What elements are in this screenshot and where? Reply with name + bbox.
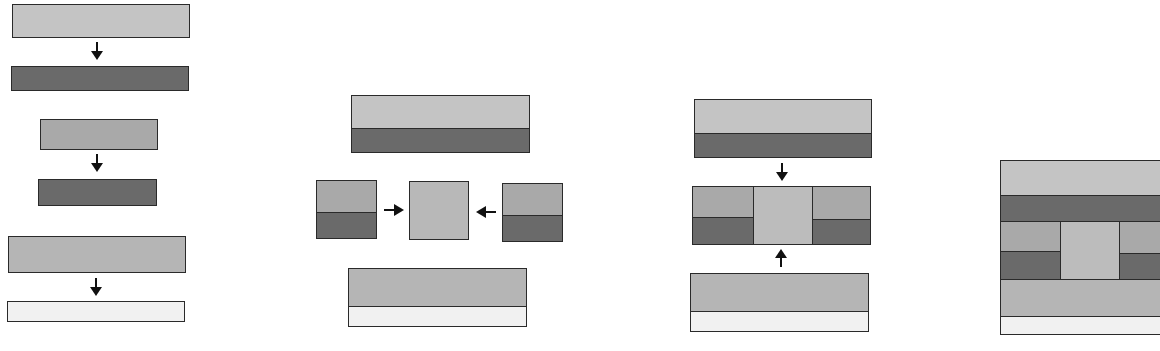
band-dark bbox=[503, 215, 562, 241]
band-dark bbox=[352, 128, 529, 152]
bottom-bilayer bbox=[348, 268, 527, 327]
top-bilayer bbox=[694, 99, 872, 158]
center-segment bbox=[1060, 222, 1119, 279]
center-segment bbox=[753, 187, 812, 244]
band-very-light bbox=[1001, 316, 1160, 334]
band-medium bbox=[317, 181, 376, 212]
band-very-light bbox=[349, 306, 526, 326]
arrow-left-icon bbox=[476, 206, 496, 218]
band-medium bbox=[349, 269, 526, 306]
arrow-down-icon bbox=[90, 278, 102, 296]
band-medium bbox=[693, 187, 753, 217]
top-bilayer bbox=[351, 95, 530, 153]
layer-dark-2 bbox=[38, 179, 157, 206]
band-medium bbox=[691, 274, 868, 311]
bottom-bilayer bbox=[690, 273, 869, 332]
right-segment bbox=[812, 187, 870, 244]
band-light bbox=[1001, 161, 1160, 195]
layer-light-3 bbox=[8, 236, 186, 273]
band-dark bbox=[1120, 253, 1160, 279]
band-medium bbox=[1001, 222, 1060, 251]
assembled-stack bbox=[1000, 160, 1160, 335]
layer-dark-1 bbox=[11, 66, 189, 91]
band-dark bbox=[693, 217, 753, 244]
arrow-down-icon bbox=[91, 154, 103, 172]
band-dark bbox=[695, 133, 871, 157]
band-dark bbox=[813, 219, 870, 244]
arrow-down-icon bbox=[91, 42, 103, 60]
band-medium bbox=[1001, 279, 1160, 316]
arrow-down-icon bbox=[776, 163, 788, 181]
band-dark bbox=[1001, 251, 1060, 279]
layer-very-light-3 bbox=[7, 301, 185, 322]
band-composite-middle bbox=[1001, 221, 1160, 279]
band-very-light bbox=[691, 311, 868, 331]
band-dark bbox=[1001, 195, 1160, 221]
band-medium bbox=[813, 187, 870, 219]
layer-light-1 bbox=[12, 4, 190, 38]
layer-medium-2 bbox=[40, 119, 158, 150]
left-segment bbox=[693, 187, 753, 244]
middle-composite bbox=[692, 186, 871, 245]
left-block bbox=[316, 180, 377, 239]
band-light bbox=[695, 100, 871, 133]
center-block bbox=[409, 181, 469, 240]
band-medium bbox=[503, 184, 562, 215]
band-medium bbox=[1120, 222, 1160, 253]
band-dark bbox=[317, 212, 376, 238]
right-segment bbox=[1119, 222, 1160, 279]
band-light bbox=[352, 96, 529, 128]
left-segment bbox=[1001, 222, 1060, 279]
arrow-up-icon bbox=[775, 249, 787, 267]
arrow-right-icon bbox=[384, 204, 404, 216]
right-block bbox=[502, 183, 563, 242]
